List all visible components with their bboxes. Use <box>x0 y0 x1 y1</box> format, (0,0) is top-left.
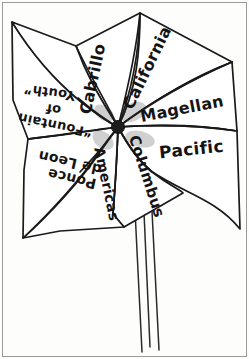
blade-label-fountain-line2: of <box>45 101 62 118</box>
drawing-canvas: California Magellan Pacific Columbus Ame… <box>0 0 249 359</box>
pinwheel-illustration: California Magellan Pacific Columbus Ame… <box>0 0 249 359</box>
pinwheel-hub-pin <box>112 121 125 134</box>
paper-sheet: California Magellan Pacific Columbus Ame… <box>0 0 249 359</box>
